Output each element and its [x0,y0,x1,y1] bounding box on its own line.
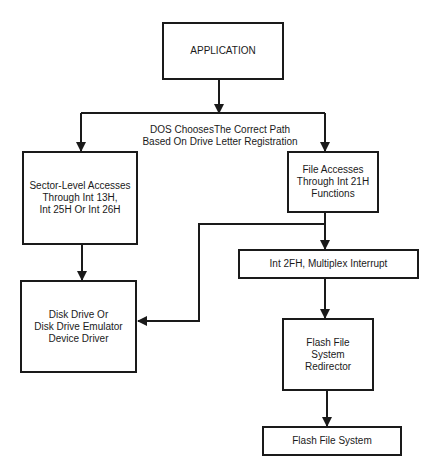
multiplex-interrupt-node: Int 2FH, Multiplex Interrupt [238,249,419,279]
redirector-node: Flash File System Redirector [282,318,374,391]
disk-driver-label: Disk Drive Or Disk Drive Emulator Device… [34,309,122,345]
sector-level-node: Sector-Level Accesses Through Int 13H, I… [22,151,138,245]
redirector-label: Flash File System Redirector [305,337,351,373]
flash-file-system-label: Flash File System [292,435,371,447]
disk-driver-node: Disk Drive Or Disk Drive Emulator Device… [20,280,137,373]
sector-level-label: Sector-Level Accesses Through Int 13H, I… [29,180,130,216]
file-accesses-node: File Accesses Through Int 21H Functions [287,151,379,213]
multiplex-interrupt-label: Int 2FH, Multiplex Interrupt [270,258,388,270]
file-accesses-label: File Accesses Through Int 21H Functions [297,164,369,200]
application-node: APPLICATION [162,22,284,80]
dos-choice-annotation: DOS ChoosesThe Correct Path Based On Dri… [100,124,340,148]
flash-file-system-node: Flash File System [262,426,402,456]
application-label: APPLICATION [190,45,255,57]
